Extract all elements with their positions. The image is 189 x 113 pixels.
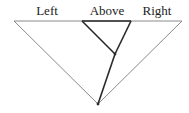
stem-to-root — [98, 54, 115, 104]
label-left: Left — [36, 3, 58, 18]
tree-diagram: Left Above Right — [0, 0, 189, 113]
outer-left-edge — [14, 21, 98, 104]
root-node — [97, 103, 100, 106]
label-above: Above — [90, 3, 125, 18]
label-right: Right — [143, 3, 172, 18]
inner-left-branch — [82, 21, 115, 54]
outer-right-edge — [98, 21, 182, 104]
junction-node — [114, 53, 117, 56]
inner-right-branch — [115, 21, 131, 54]
